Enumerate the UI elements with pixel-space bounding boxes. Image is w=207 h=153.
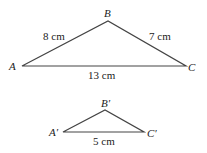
side-ac-label: 13 cm — [88, 69, 116, 81]
vertex-b-label: B — [104, 7, 111, 19]
vertex-a-label: A — [8, 60, 16, 72]
triangle-abc — [22, 21, 186, 66]
vertex-c-prime-label: C′ — [147, 127, 157, 139]
side-ab-label: 8 cm — [43, 30, 65, 42]
vertex-c-label: C — [188, 61, 196, 73]
vertex-a-prime-label: A′ — [48, 126, 59, 138]
similar-triangles-diagram: A B C 8 cm 7 cm 13 cm A′ B′ C′ 5 cm — [0, 0, 207, 153]
vertex-b-prime-label: B′ — [101, 97, 111, 109]
triangle-a-prime-b-prime-c-prime — [63, 110, 144, 132]
large-triangle: A B C 8 cm 7 cm 13 cm — [8, 7, 196, 81]
side-a-prime-c-prime-label: 5 cm — [93, 135, 115, 147]
side-bc-label: 7 cm — [149, 30, 171, 42]
small-triangle: A′ B′ C′ 5 cm — [48, 97, 157, 147]
